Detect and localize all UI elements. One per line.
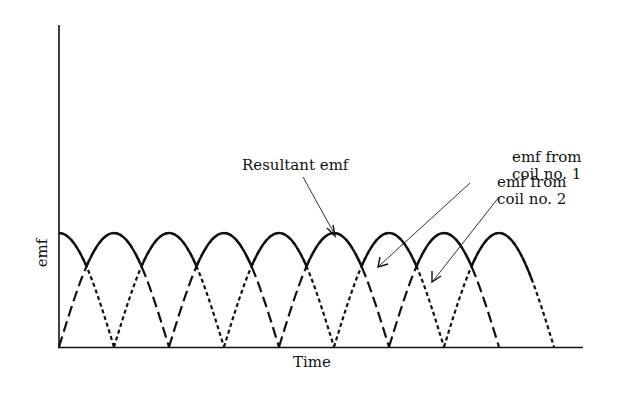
resultant-emf-curve <box>59 233 532 280</box>
curve-segment <box>224 233 334 347</box>
x-axis-label: Time <box>293 354 331 371</box>
coil2-label-line1: emf from <box>497 174 566 191</box>
curve-segment <box>114 233 224 347</box>
curve-segment <box>59 233 114 347</box>
y-axis-label: emf <box>33 239 51 268</box>
coil1-arrow <box>379 183 470 266</box>
curve-segment <box>444 233 554 347</box>
coil2-label-line2: coil no. 2 <box>497 191 566 208</box>
annotation-arrows <box>303 177 499 282</box>
curve-segment <box>59 233 499 266</box>
resultant-arrow <box>303 177 335 235</box>
curve-segment <box>499 233 532 280</box>
curve-segment <box>279 233 389 347</box>
coil1-label-line1: emf from <box>512 149 581 166</box>
curve-segment <box>169 233 279 347</box>
curve-segment <box>334 233 444 347</box>
curve-segment <box>389 233 499 347</box>
curve-segment <box>59 233 169 347</box>
resultant-label: Resultant emf <box>242 157 348 174</box>
coil-1-emf-curve <box>59 233 499 347</box>
